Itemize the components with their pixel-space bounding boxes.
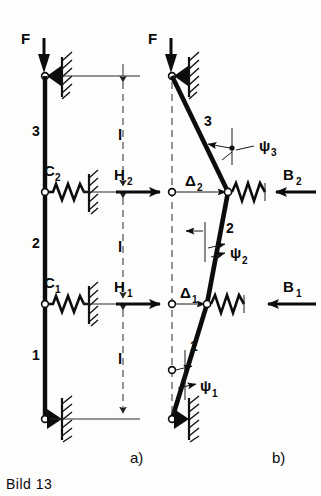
spring-c2-label-a: C	[44, 162, 55, 179]
diagram-canvas: 3 2 1 C 2	[0, 0, 321, 496]
angle-psi2-sub: 2	[242, 255, 248, 266]
spring-c1-label-a: C	[44, 274, 55, 291]
force-h2-sub: 2	[127, 176, 133, 187]
angle-psi3-label: ψ	[259, 137, 270, 154]
support-bottom-b	[169, 396, 199, 442]
angle-psi3-sub: 3	[271, 147, 277, 158]
force-b1-sub: 1	[296, 288, 302, 299]
delta2-sub: 2	[197, 182, 203, 193]
delta2-label: Δ	[185, 172, 196, 189]
force-b2-label: B	[283, 166, 294, 183]
dimension-length-bottom-label: l	[118, 350, 122, 367]
member-1-label-b: 1	[190, 338, 198, 354]
force-h1-sub: 1	[127, 288, 133, 299]
member-1-label-a: 1	[32, 347, 40, 363]
force-b1-label: B	[283, 278, 294, 295]
spring-c2-sub-a: 2	[55, 172, 61, 183]
panel-b-label: b)	[272, 449, 285, 466]
force-h1-label: H	[114, 278, 125, 295]
panel-a-label: a)	[130, 449, 143, 466]
panel-b: F 3 2 1	[114, 30, 316, 466]
angle-psi2-label: ψ	[230, 244, 241, 261]
delta1-sub: 1	[192, 294, 198, 305]
force-h2-label: H	[114, 166, 125, 183]
member-3-label-b: 3	[204, 113, 212, 129]
angle-psi3-marker	[208, 128, 254, 165]
load-f-label-b: F	[148, 30, 157, 47]
force-b2-sub: 2	[296, 176, 302, 187]
dimension-length-top-label: l	[118, 126, 122, 143]
dimension-extension-lines-a	[50, 76, 140, 419]
angle-psi1-sub: 1	[212, 388, 218, 399]
member-2-label-a: 2	[32, 235, 40, 251]
angle-psi1-label: ψ	[200, 377, 211, 394]
spring-c1-sub-a: 1	[55, 284, 61, 295]
load-f-label-a: F	[21, 30, 30, 47]
load-arrow-f-a	[38, 38, 50, 73]
panel-a: 3 2 1 C 2	[21, 30, 143, 466]
dimension-length-middle-label: l	[118, 238, 122, 255]
member-3-bar-b	[172, 76, 228, 192]
member-2-label-b: 2	[226, 220, 234, 236]
member-3-label-a: 3	[32, 123, 40, 139]
delta1-label: Δ	[180, 284, 191, 301]
load-arrow-f-b	[165, 38, 177, 73]
figure-bild-13: 3 2 1 C 2	[0, 0, 321, 496]
figure-caption: Bild 13	[6, 476, 52, 492]
joint-level-2-b	[169, 183, 265, 201]
